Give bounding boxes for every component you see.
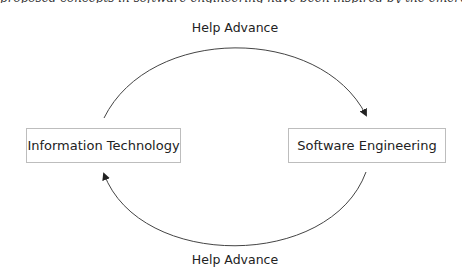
node-label: Software Engineering	[297, 138, 436, 153]
edge-label-top: Help Advance	[192, 20, 278, 35]
node-software-engineering: Software Engineering	[288, 128, 446, 163]
bottom-arrow-se-to-it	[104, 172, 366, 246]
top-arrow-it-to-se	[104, 48, 366, 118]
node-information-technology: Information Technology	[26, 128, 181, 163]
edge-label-bottom: Help Advance	[192, 252, 278, 267]
node-label: Information Technology	[27, 138, 179, 153]
